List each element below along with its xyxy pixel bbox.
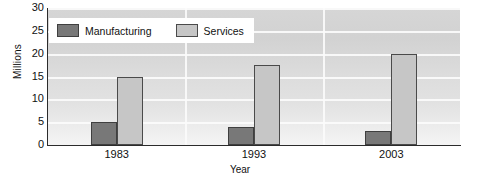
bar-manufacturing-1993: [228, 127, 254, 145]
legend-entry-manufacturing[interactable]: Manufacturing: [57, 24, 152, 37]
y-tick-20: 20: [24, 48, 44, 59]
manufacturing-swatch: [57, 24, 79, 37]
chart-legend: ManufacturingServices: [49, 18, 254, 43]
y-tick-0: 0: [24, 139, 44, 150]
y-axis-line: [47, 8, 48, 146]
y-tick-10: 10: [24, 93, 44, 104]
x-tick-1993: 1993: [214, 148, 294, 160]
bar-manufacturing-1983: [91, 122, 117, 145]
x-axis-title: Year: [0, 164, 480, 175]
x-tick-1983: 1983: [77, 148, 157, 160]
x-tick-2003: 2003: [351, 148, 431, 160]
bar-manufacturing-2003: [365, 131, 391, 145]
gridline-vertical: [323, 8, 325, 145]
bar-services-1993: [254, 65, 280, 145]
legend-label-services: Services: [204, 25, 244, 37]
bar-services-1983: [117, 77, 143, 146]
legend-label-manufacturing: Manufacturing: [85, 25, 152, 37]
bar-services-2003: [391, 54, 417, 145]
y-axis-title: Millions: [12, 27, 23, 97]
x-axis-line: [47, 145, 461, 146]
gridline-horizontal: [48, 8, 460, 10]
y-tick-5: 5: [24, 116, 44, 127]
y-axis-tick-labels: 302520151050: [22, 0, 44, 183]
services-swatch: [176, 24, 198, 37]
legend-entry-services[interactable]: Services: [176, 24, 244, 37]
y-tick-30: 30: [24, 2, 44, 13]
bar-chart: Millions 302520151050 198319932003 Year …: [0, 0, 480, 183]
y-tick-15: 15: [24, 71, 44, 82]
y-tick-25: 25: [24, 25, 44, 36]
